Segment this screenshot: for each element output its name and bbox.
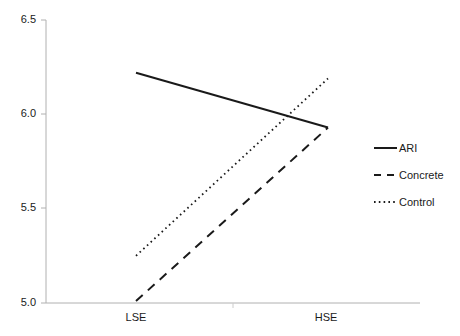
- y-axis-label-6-5: 6.5: [2, 13, 36, 25]
- legend-label-concrete: Concrete: [399, 169, 444, 181]
- x-axis-label-hse: HSE: [296, 311, 356, 323]
- legend-label-ari: ARI: [399, 142, 417, 154]
- y-axis-label-6-0: 6.0: [2, 107, 36, 119]
- legend-label-control: Control: [399, 196, 434, 208]
- x-axis-label-lse: LSE: [106, 311, 166, 323]
- series-line-control: [136, 78, 328, 255]
- plot-canvas: [0, 0, 460, 336]
- y-axis-label-5-0: 5.0: [2, 296, 36, 308]
- interaction-plot: 6.5 6.0 5.5 5.0 LSE HSE ARI Concrete Con…: [0, 0, 460, 336]
- series-line-ari: [136, 73, 328, 128]
- series-line-concrete: [136, 128, 328, 302]
- y-axis-label-5-5: 5.5: [2, 201, 36, 213]
